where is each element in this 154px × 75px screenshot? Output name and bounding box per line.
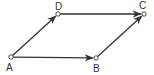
point-a <box>9 55 13 59</box>
point-b <box>94 56 98 60</box>
point-label-b: B <box>93 63 100 74</box>
point-label-d: D <box>55 1 62 12</box>
vector-bc <box>98 16 142 56</box>
vector-ab <box>13 57 93 58</box>
point-d <box>56 12 60 16</box>
point-label-c: C <box>139 0 146 11</box>
vector-ad <box>13 16 56 55</box>
parallelogram-diagram: A B C D <box>0 0 154 75</box>
point-c <box>142 12 146 16</box>
point-label-a: A <box>6 62 13 73</box>
